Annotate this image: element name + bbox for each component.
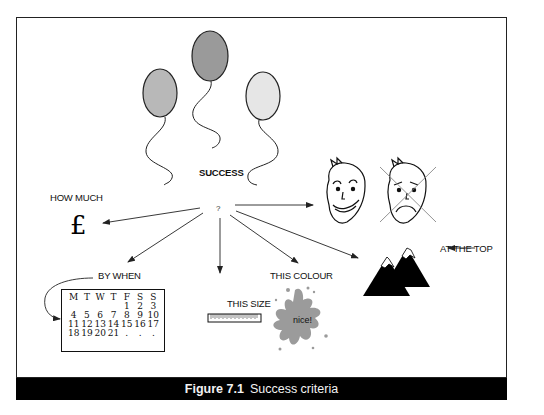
this-size-label: THIS SIZE: [227, 298, 271, 309]
at-the-top-label: AT THE TOP: [440, 243, 493, 254]
calendar-cell: 21: [107, 329, 120, 338]
calendar: M T W T F S S 1 2 3 4 5 6 7 8 9 10 11 12…: [61, 289, 165, 352]
by-when-label: BY WHEN: [98, 270, 141, 281]
sad-face-crossed-icon: [380, 158, 436, 223]
question-mark: ?: [216, 204, 220, 213]
balloon-right-icon: [246, 72, 280, 185]
mountains-icon: [363, 248, 430, 296]
figure-title: Success criteria: [250, 382, 338, 396]
calendar-cell: 20: [94, 329, 107, 338]
ruler-icon: [208, 314, 261, 322]
diagram-art: [0, 0, 544, 415]
success-label: SUCCESS: [199, 167, 244, 178]
figure-number: Figure 7.1: [185, 382, 244, 396]
balloon-middle-icon: [192, 31, 228, 148]
figure-caption: Figure 7.1 Success criteria: [16, 378, 507, 400]
calendar-cell: .: [133, 329, 146, 338]
calendar-grid: M T W T F S S 1 2 3 4 5 6 7 8 9 10 11 12…: [67, 293, 160, 338]
pound-sign-icon: £: [70, 212, 87, 238]
splat-text: nice!: [293, 315, 312, 325]
happy-face-icon: [327, 158, 365, 223]
how-much-label: HOW MUCH: [50, 192, 103, 203]
calendar-header: M: [67, 293, 80, 302]
calendar-header: T: [107, 293, 120, 302]
calendar-header: T: [80, 293, 93, 302]
this-colour-label: THIS COLOUR: [270, 270, 333, 281]
calendar-cell: 18: [67, 329, 80, 338]
calendar-header: W: [94, 293, 107, 302]
balloon-left-icon: [143, 69, 177, 185]
calendar-cell: .: [120, 329, 133, 338]
calendar-cell: .: [147, 329, 160, 338]
calendar-cell: 19: [80, 329, 93, 338]
